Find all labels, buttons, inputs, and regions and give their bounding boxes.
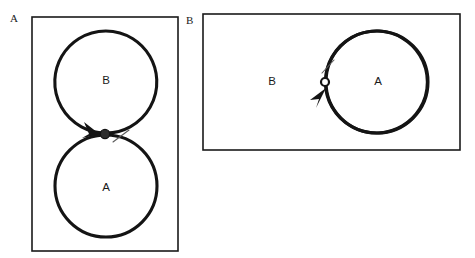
panel-b-circle-b-label: B	[268, 75, 276, 87]
panel-a-circle-b-label: B	[102, 74, 110, 86]
panel-b-circle-a-label: A	[374, 75, 382, 87]
panel-b-frame	[203, 14, 460, 150]
two-panel-circle-diagram: A B A B	[0, 0, 475, 258]
panel-a-tag: A	[10, 12, 18, 24]
panel-a-junction-node	[100, 129, 109, 138]
panel-b-junction-node	[321, 78, 329, 86]
panel-a-circle-a-label: A	[102, 181, 110, 193]
panel-a: A B A	[10, 12, 178, 251]
panel-b-tag: B	[186, 14, 193, 26]
figure-container: A B A B	[0, 0, 475, 258]
panel-b: B B A	[186, 14, 460, 150]
